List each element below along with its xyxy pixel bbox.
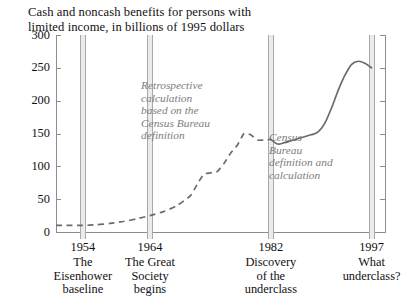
series-layer bbox=[0, 0, 412, 304]
series-line-retrospective bbox=[56, 133, 271, 225]
chart-container: Cash and noncash benefits for persons wi… bbox=[0, 0, 412, 304]
series-line-census bbox=[271, 61, 372, 144]
